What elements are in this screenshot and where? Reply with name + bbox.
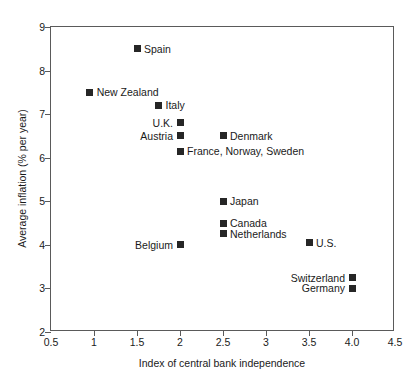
data-point-marker [349, 274, 356, 281]
data-point-marker [155, 102, 162, 109]
y-tick-label: 4 [39, 240, 45, 251]
y-tick-mark [45, 201, 51, 202]
data-point-marker [306, 239, 313, 246]
data-point-label: Italy [166, 100, 185, 111]
x-tick-label: 4.5 [388, 337, 403, 348]
y-tick-mark [45, 245, 51, 246]
x-tick-label: 3.5 [302, 337, 317, 348]
data-point-marker [86, 89, 93, 96]
data-point-marker [177, 241, 184, 248]
y-tick-label: 6 [39, 152, 45, 163]
y-tick-label: 9 [39, 22, 45, 33]
y-tick-label: 3 [39, 283, 45, 294]
plot-area: 23456789 0.511.522.533.54.04.5 SpainNew … [50, 26, 394, 331]
x-tick-label: 2.5 [216, 337, 231, 348]
data-point-label: Canada [230, 218, 267, 229]
x-tick-label: 1 [91, 337, 97, 348]
data-point-marker [220, 198, 227, 205]
x-tick-label: 3 [263, 337, 269, 348]
data-point-marker [220, 132, 227, 139]
x-tick-label: 0.5 [44, 337, 59, 348]
y-tick-mark [45, 332, 51, 333]
data-point-marker [220, 230, 227, 237]
data-point-label: Belgium [135, 240, 173, 251]
data-point-label: U.K. [153, 118, 173, 129]
data-point-label: Germany [302, 283, 345, 294]
data-point-label: Japan [230, 196, 259, 207]
data-point-label: New Zealand [97, 87, 159, 98]
scatter-chart-figure: 23456789 0.511.522.533.54.04.5 SpainNew … [0, 0, 419, 385]
data-point-marker [177, 148, 184, 155]
x-tick-label: 4.0 [345, 337, 360, 348]
y-tick-label: 8 [39, 65, 45, 76]
y-tick-mark [45, 288, 51, 289]
data-point-marker [134, 45, 141, 52]
y-tick-mark [45, 71, 51, 72]
y-tick-mark [45, 27, 51, 28]
data-point-label: U.S. [316, 238, 336, 249]
data-point-label: Denmark [230, 131, 273, 142]
y-tick-label: 5 [39, 196, 45, 207]
data-point-label: Netherlands [230, 229, 287, 240]
data-point-label: France, Norway, Sweden [187, 146, 304, 157]
data-point-marker [177, 132, 184, 139]
y-tick-label: 7 [39, 109, 45, 120]
x-axis-title: Index of central bank independence [50, 357, 394, 369]
x-tick-label: 2 [177, 337, 183, 348]
data-point-label: Austria [140, 131, 173, 142]
data-point-marker [220, 220, 227, 227]
x-tick-label: 1.5 [130, 337, 145, 348]
y-tick-mark [45, 114, 51, 115]
data-point-label: Spain [144, 44, 171, 55]
data-point-marker [177, 119, 184, 126]
y-axis-title: Average inflation (% per year) [16, 26, 32, 331]
y-tick-mark [45, 158, 51, 159]
data-point-marker [349, 285, 356, 292]
